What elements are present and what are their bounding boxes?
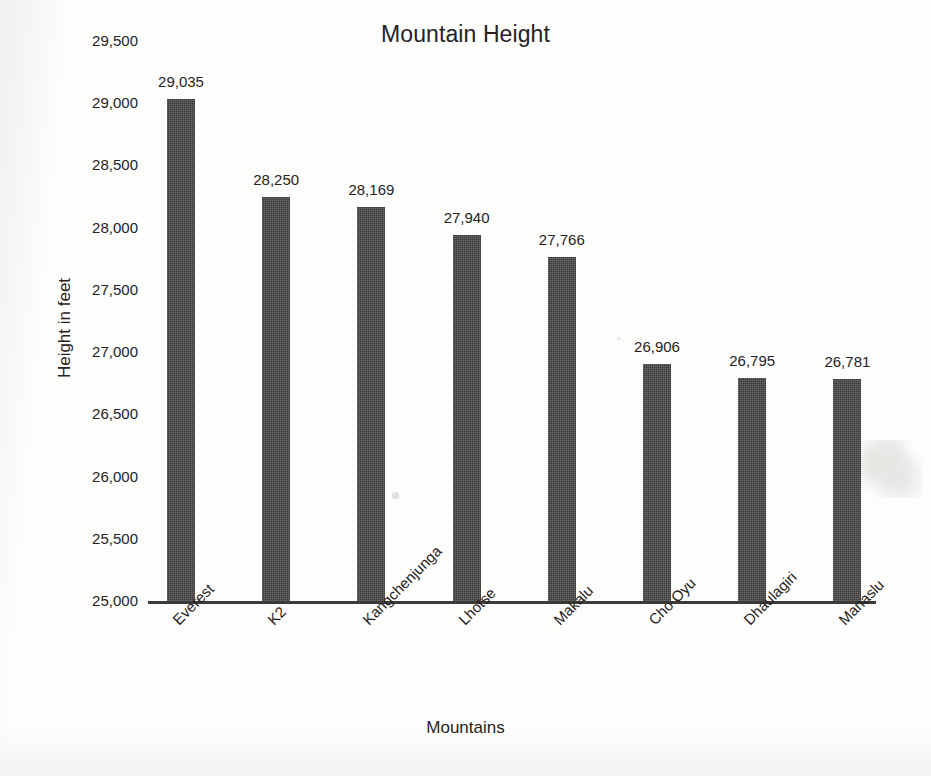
y-axis-tick-label: 29,000: [60, 94, 138, 111]
bar: [262, 197, 290, 601]
bar-value-label: 27,940: [422, 209, 512, 226]
y-axis-tick-label: 26,000: [60, 468, 138, 485]
bar-value-label: 26,781: [802, 353, 892, 370]
x-axis-title: Mountains: [0, 718, 931, 738]
y-axis-tick-label: 27,500: [60, 281, 138, 298]
y-axis-tick-label: 27,000: [60, 343, 138, 360]
bar-chart: Mountain Height Height in feet Mountains…: [0, 0, 931, 776]
bar-value-label: 26,795: [707, 352, 797, 369]
bar: [643, 364, 671, 601]
bar-value-label: 29,035: [136, 73, 226, 90]
bar-value-label: 28,250: [231, 171, 321, 188]
y-axis-title: Height in feet: [55, 228, 75, 428]
y-axis-tick-label: 28,500: [60, 156, 138, 173]
bar: [357, 207, 385, 601]
bar: [167, 99, 195, 601]
y-axis-tick-label: 29,500: [60, 32, 138, 49]
y-axis-tick-label: 26,500: [60, 405, 138, 422]
y-axis-tick-label: 28,000: [60, 219, 138, 236]
bar: [453, 235, 481, 601]
y-axis-tick-label: 25,000: [60, 592, 138, 609]
bar-value-label: 27,766: [517, 231, 607, 248]
y-axis-tick-label: 25,500: [60, 530, 138, 547]
bar-value-label: 26,906: [612, 338, 702, 355]
x-axis-category-label: K2: [264, 603, 289, 628]
plot-area: 29,03528,25028,16927,94027,76626,90626,7…: [148, 36, 876, 603]
bar: [738, 378, 766, 601]
bar-value-label: 28,169: [326, 181, 416, 198]
bar: [833, 379, 861, 601]
bar: [548, 257, 576, 601]
